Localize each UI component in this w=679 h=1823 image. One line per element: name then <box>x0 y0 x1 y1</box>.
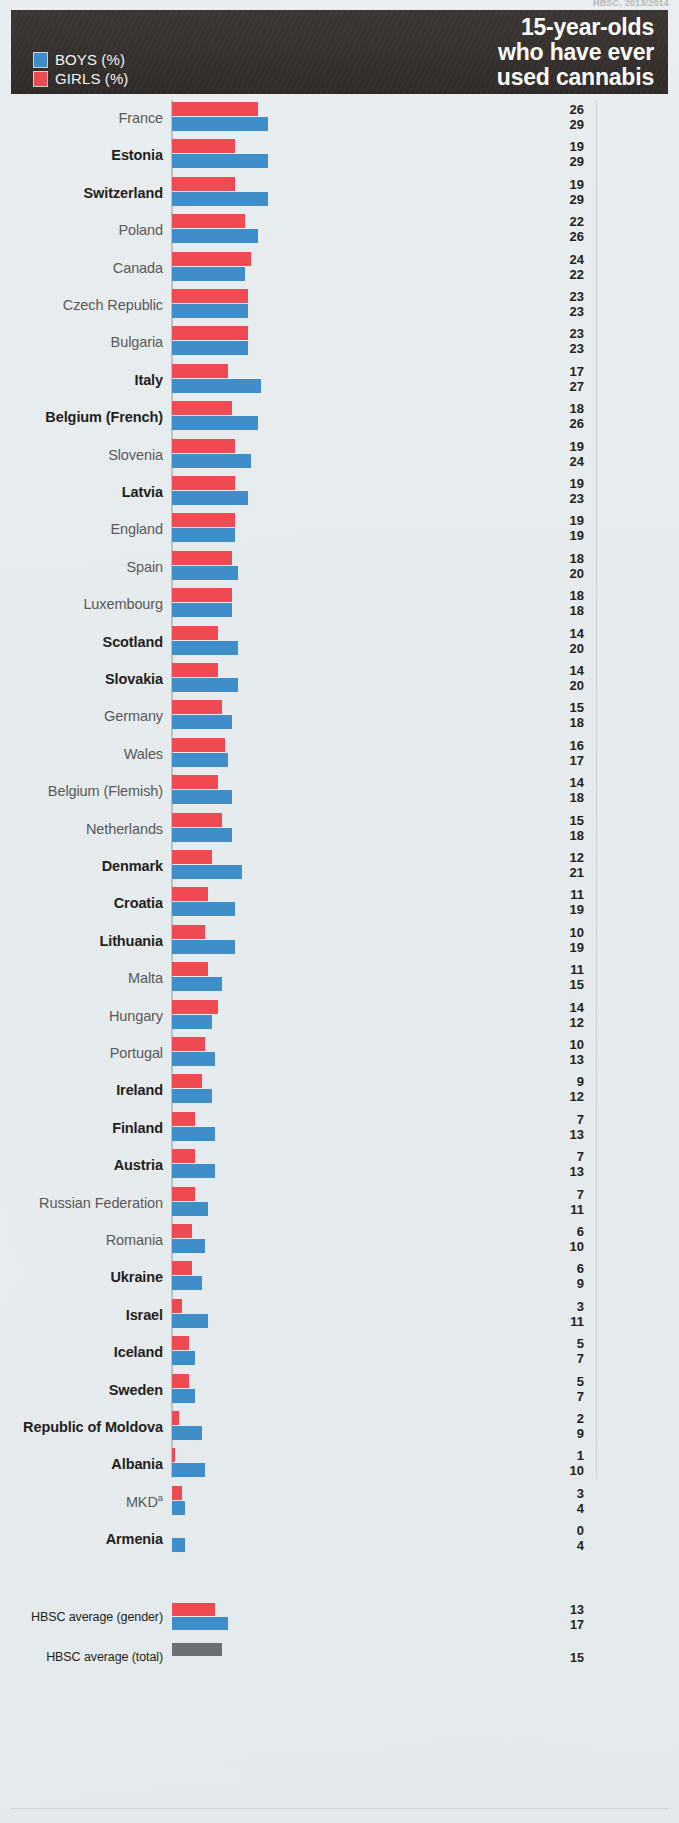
value-boys: 22 <box>500 267 584 282</box>
legend-label-girls: GIRLS (%) <box>55 71 128 87</box>
row-value-labels: 04 <box>500 1523 584 1553</box>
bar-girls <box>172 887 208 901</box>
row-value-labels: 1418 <box>500 775 584 805</box>
bar-group-average-total <box>172 1643 222 1656</box>
bar-girls <box>172 1112 195 1126</box>
chart-header-banner: 15-year-olds who have ever used cannabis… <box>11 10 668 94</box>
value-girls: 3 <box>500 1486 584 1501</box>
row-value-labels: 2323 <box>500 289 584 319</box>
value-girls: 19 <box>500 177 584 192</box>
chart-row: Ukraine69 <box>0 1259 679 1296</box>
chart-row: Netherlands1518 <box>0 811 679 848</box>
row-value-labels: 57 <box>500 1336 584 1366</box>
country-label: Latvia <box>0 482 163 503</box>
hbsc-average-total-values: 15 <box>500 1651 584 1666</box>
bar-boys <box>172 304 248 318</box>
chart-row: Iceland57 <box>0 1334 679 1371</box>
chart-row: Republic of Moldova29 <box>0 1409 679 1446</box>
value-girls: 0 <box>500 1523 584 1538</box>
bar-girls <box>172 663 218 677</box>
bar-average-total <box>172 1643 222 1656</box>
chart-row: Israel311 <box>0 1297 679 1334</box>
bar-boys <box>172 379 261 393</box>
row-value-labels: 1019 <box>500 925 584 955</box>
bar-group <box>172 588 232 617</box>
bar-boys <box>172 790 232 804</box>
bar-girls <box>172 850 212 864</box>
value-girls: 7 <box>500 1112 584 1127</box>
bar-boys <box>172 1089 212 1103</box>
value-boys: 11 <box>500 1202 584 1217</box>
value-boys: 29 <box>500 192 584 207</box>
bar-boys <box>172 1538 185 1552</box>
chart-row: Estonia1929 <box>0 137 679 174</box>
bottom-divider <box>11 1808 668 1809</box>
country-label: England <box>0 519 163 540</box>
value-boys: 26 <box>500 229 584 244</box>
bar-boys <box>172 1164 215 1178</box>
bar-boys <box>172 1202 208 1216</box>
bar-boys <box>172 154 268 168</box>
bar-group <box>172 289 248 318</box>
bar-boys <box>172 491 248 505</box>
value-boys: 24 <box>500 454 584 469</box>
chart-row: England1919 <box>0 511 679 548</box>
bar-group <box>172 1299 208 1328</box>
bar-group <box>172 1224 205 1253</box>
value-boys: 19 <box>500 940 584 955</box>
bar-boys <box>172 454 251 468</box>
bar-boys <box>172 566 238 580</box>
country-label: Wales <box>0 744 163 765</box>
bar-boys <box>172 1127 215 1141</box>
chart-row: Latvia1923 <box>0 474 679 511</box>
value-girls: 18 <box>500 401 584 416</box>
bar-group <box>172 1112 215 1141</box>
bar-girls <box>172 1486 182 1500</box>
value-boys: 13 <box>500 1127 584 1142</box>
value-girls: 14 <box>500 1000 584 1015</box>
chart-row: Slovenia1924 <box>0 437 679 474</box>
country-label: Netherlands <box>0 819 163 840</box>
value-boys: 11 <box>500 1314 584 1329</box>
row-value-labels: 311 <box>500 1299 584 1329</box>
country-label: Malta <box>0 968 163 989</box>
chart-row: Slovakia1420 <box>0 661 679 698</box>
value-girls: 23 <box>500 289 584 304</box>
value-boys: 19 <box>500 902 584 917</box>
row-value-labels: 1420 <box>500 663 584 693</box>
bar-girls <box>172 775 218 789</box>
bar-group <box>172 700 232 729</box>
value-girls: 10 <box>500 1037 584 1052</box>
country-label: Germany <box>0 706 163 727</box>
value-girls: 2 <box>500 1411 584 1426</box>
chart-row: Belgium (Flemish)1418 <box>0 773 679 810</box>
country-label: Belgium (Flemish) <box>0 781 163 802</box>
chart-row: Ireland912 <box>0 1072 679 1109</box>
chart-plot-area: France2629Estonia1929Switzerland1929Pola… <box>0 100 679 1700</box>
bar-group <box>172 439 251 468</box>
value-boys: 23 <box>500 341 584 356</box>
country-label: Finland <box>0 1118 163 1139</box>
bar-girls <box>172 1299 182 1313</box>
chart-row: Russian Federation711 <box>0 1185 679 1222</box>
country-label: Ukraine <box>0 1267 163 1288</box>
value-average-total: 15 <box>500 1651 584 1666</box>
bar-girls <box>172 1336 189 1350</box>
bar-boys <box>172 641 238 655</box>
bar-boys <box>172 528 235 542</box>
value-girls: 14 <box>500 775 584 790</box>
country-label: Lithuania <box>0 931 163 952</box>
bar-group <box>172 738 228 767</box>
value-average-girls: 13 <box>500 1603 584 1618</box>
hbsc-average-total-label: HBSC average (total) <box>0 1647 163 1668</box>
bar-average-boys <box>172 1617 228 1630</box>
bar-group-average-gender <box>172 1603 228 1630</box>
bar-girls <box>172 738 225 752</box>
chart-row: Lithuania1019 <box>0 923 679 960</box>
chart-row: Germany1518 <box>0 698 679 735</box>
bar-group <box>172 1149 215 1178</box>
row-value-labels: 2323 <box>500 326 584 356</box>
bar-average-girls <box>172 1603 215 1616</box>
row-value-labels: 69 <box>500 1261 584 1291</box>
chart-row: Spain1820 <box>0 549 679 586</box>
